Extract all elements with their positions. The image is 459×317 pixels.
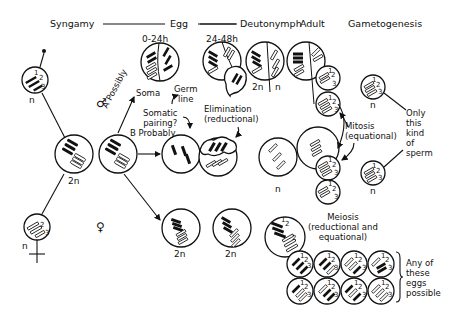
possible-egg: 123	[341, 251, 367, 277]
ploidy-label: n	[370, 186, 376, 196]
ploidy-label: 2n	[68, 176, 79, 186]
stage-adult: Adult	[300, 19, 325, 29]
ploidy-label: n	[275, 82, 281, 92]
stage-deutonymph: Deutonymph	[240, 19, 302, 29]
svg-text:3: 3	[334, 106, 338, 114]
mitosis-cell-3: 123	[316, 156, 340, 180]
svg-text:2: 2	[331, 256, 335, 264]
sperm-cell-bottom: 123	[361, 161, 385, 185]
possible-egg: 123	[368, 251, 394, 277]
possible-egg: 123	[287, 278, 313, 304]
possible-egg: 123	[314, 278, 340, 304]
zygote-cell	[55, 135, 93, 173]
b-probably-label: B Probably	[130, 128, 175, 138]
sperm-cell: 123	[22, 49, 48, 93]
svg-text:3: 3	[334, 264, 338, 272]
ploidy-label: n	[29, 95, 35, 105]
stage-syngamy: Syngamy	[50, 19, 94, 29]
ploidy-label: n	[22, 241, 28, 251]
svg-text:3: 3	[388, 291, 392, 299]
egg-0-24h-cell	[141, 43, 179, 81]
svg-text:3: 3	[334, 193, 338, 201]
germ-line-label: Germ line	[174, 84, 197, 104]
possible-egg: 123	[314, 251, 340, 277]
svg-text:2: 2	[332, 185, 336, 193]
svg-text:2: 2	[39, 74, 43, 82]
svg-text:2: 2	[331, 71, 335, 79]
svg-text:2: 2	[385, 283, 389, 291]
egg-24-48h-cell	[203, 42, 246, 96]
time-24-48h: 24-48h	[206, 34, 238, 44]
svg-text:2: 2	[358, 283, 362, 291]
mitosis-cell-1: 123	[316, 66, 340, 90]
stage-gametogenesis: Gametogenesis	[348, 19, 422, 29]
somatic-pairing-label: Somatic pairing?	[143, 108, 177, 128]
possible-egg: 123	[287, 251, 313, 277]
ploidy-label: 2n	[225, 249, 236, 259]
elimination-label: Elimination (reductional)	[204, 104, 258, 124]
svg-text:2: 2	[331, 283, 335, 291]
haploid-cell	[259, 138, 297, 176]
somatic-pairing-cell	[162, 135, 200, 173]
svg-text:2: 2	[285, 220, 289, 228]
brace	[396, 252, 403, 302]
svg-text:3: 3	[378, 174, 382, 182]
egg-gamete-cell: 23	[24, 214, 50, 263]
svg-text:3: 3	[334, 169, 338, 177]
svg-text:1: 1	[34, 69, 38, 77]
svg-text:2: 2	[292, 234, 296, 242]
svg-text:3: 3	[334, 291, 338, 299]
sperm-cell-top: 123	[361, 75, 385, 99]
mitosis-label: Mitosis (equational)	[345, 121, 397, 141]
male-symbol: ♂	[96, 98, 107, 108]
ploidy-label: 2n	[174, 249, 185, 259]
egg-grid: 123 123 123 123 123 123	[287, 251, 394, 304]
elimination-cell	[199, 137, 237, 176]
chromosome-elimination-diagram: 123 23	[0, 0, 459, 317]
svg-text:3: 3	[362, 264, 366, 272]
svg-text:2: 2	[332, 161, 336, 169]
svg-text:2: 2	[40, 221, 44, 229]
meiosis-label: Meiosis (reductional and equational)	[308, 212, 378, 242]
female-egg-cell-1	[162, 209, 200, 247]
stage-egg: Egg	[170, 19, 188, 29]
svg-text:2: 2	[358, 256, 362, 264]
svg-text:3: 3	[388, 264, 392, 272]
soma-label: Soma	[136, 88, 160, 98]
ploidy-label: n	[275, 184, 281, 194]
svg-text:3: 3	[307, 262, 311, 270]
svg-text:2: 2	[385, 256, 389, 264]
ploidy-label: n	[370, 100, 376, 110]
only-sperm-label: Only this kind of sperm	[406, 108, 433, 158]
mitosis-cell-4: 123	[316, 180, 340, 204]
ploidy-label: 2n	[252, 82, 263, 92]
svg-text:3: 3	[41, 83, 45, 91]
egg-cell	[99, 135, 137, 173]
svg-text:3: 3	[307, 291, 311, 299]
svg-text:2: 2	[304, 283, 308, 291]
svg-text:3: 3	[378, 88, 382, 96]
female-egg-cell-2	[213, 209, 251, 247]
svg-text:3: 3	[45, 229, 49, 237]
any-eggs-label: Any of these eggs possible	[406, 258, 441, 298]
svg-text:3: 3	[332, 80, 336, 88]
svg-text:3: 3	[362, 291, 366, 299]
mitosis-cell-2: 123	[316, 92, 340, 116]
female-symbol: ♀	[96, 222, 105, 232]
svg-text:2: 2	[332, 98, 336, 106]
time-0-24h: 0-24h	[142, 34, 168, 44]
possible-egg: 123	[368, 278, 394, 304]
possible-egg: 123	[341, 278, 367, 304]
